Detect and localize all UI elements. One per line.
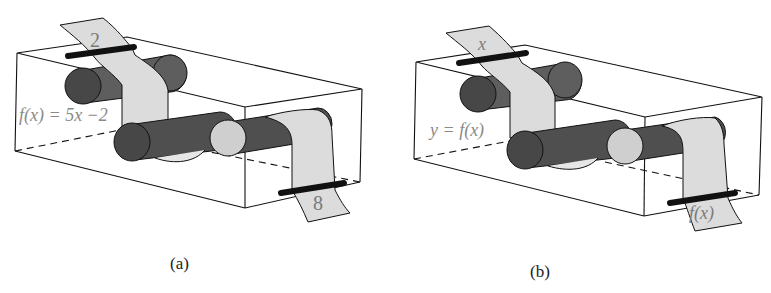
function-machine-panel-a: 2 8 f(x) = 5x −2 (a) [0, 0, 385, 293]
panel-caption-b: (b) [530, 262, 550, 282]
function-machine-diagram-b: x f(x) y = f(x) [390, 0, 771, 293]
output-value-label: 8 [313, 192, 323, 214]
input-value-label: 2 [90, 29, 100, 51]
output-expression-label: f(x) [689, 203, 714, 224]
function-rule-label: f(x) = 5x −2 [19, 105, 108, 126]
input-variable-label: x [477, 34, 486, 54]
function-machine-diagram-a: 2 8 f(x) = 5x −2 [0, 0, 385, 293]
function-machine-panel-b: x f(x) y = f(x) (b) [390, 0, 771, 293]
panel-caption-a: (a) [170, 254, 189, 274]
function-rule-label: y = f(x) [428, 120, 484, 141]
